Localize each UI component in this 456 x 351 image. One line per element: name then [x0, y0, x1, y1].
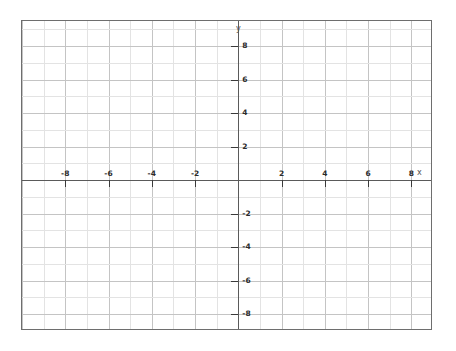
- grid-line-horizontal: [22, 147, 431, 148]
- grid-line-horizontal: [22, 96, 431, 97]
- x-tick-mark: [65, 180, 66, 187]
- x-axis: [22, 180, 431, 181]
- grid-line-vertical: [173, 21, 174, 329]
- grid-line-horizontal: [22, 46, 431, 47]
- x-tick-mark: [325, 180, 326, 187]
- grid-line-vertical: [390, 21, 391, 329]
- x-tick-mark: [195, 180, 196, 187]
- y-axis: [238, 21, 239, 329]
- x-tick-mark: [368, 180, 369, 187]
- plot-area: -8-6-4-224688642-2-4-6-8 x y: [21, 20, 432, 330]
- x-tick-label: -2: [191, 170, 199, 178]
- grid-line-horizontal: [22, 230, 431, 231]
- y-tick-label: 6: [242, 76, 247, 84]
- grid-line-horizontal: [22, 29, 431, 30]
- grid-line-horizontal: [22, 63, 431, 64]
- y-tick-mark: [231, 247, 238, 248]
- grid-line-horizontal: [22, 281, 431, 282]
- grid-line-horizontal: [22, 247, 431, 248]
- y-tick-mark: [231, 147, 238, 148]
- grid-line-vertical: [87, 21, 88, 329]
- y-tick-label: -6: [242, 277, 250, 285]
- grid-line-horizontal: [22, 113, 431, 114]
- y-tick-label: 2: [242, 143, 247, 151]
- y-tick-mark: [231, 113, 238, 114]
- y-tick-mark: [231, 46, 238, 47]
- grid-line-vertical: [22, 21, 23, 329]
- y-tick-label: -4: [242, 243, 250, 251]
- grid-line-horizontal: [22, 130, 431, 131]
- grid-line-vertical: [303, 21, 304, 329]
- x-tick-label: 6: [365, 170, 370, 178]
- x-tick-label: 2: [279, 170, 284, 178]
- grid-line-vertical: [260, 21, 261, 329]
- grid-line-vertical: [44, 21, 45, 329]
- x-tick-mark: [411, 180, 412, 187]
- y-tick-label: -2: [242, 210, 250, 218]
- grid-line-horizontal: [22, 80, 431, 81]
- grid-line-horizontal: [22, 197, 431, 198]
- x-tick-mark: [152, 180, 153, 187]
- grid-line-horizontal: [22, 314, 431, 315]
- coordinate-plane-page: -8-6-4-224688642-2-4-6-8 x y: [0, 0, 456, 351]
- grid-line-horizontal: [22, 214, 431, 215]
- y-tick-mark: [231, 80, 238, 81]
- y-tick-mark: [231, 281, 238, 282]
- y-tick-label: -8: [242, 310, 250, 318]
- y-tick-label: 8: [242, 42, 247, 50]
- x-tick-mark: [109, 180, 110, 187]
- grid-line-horizontal: [22, 264, 431, 265]
- y-tick-mark: [231, 214, 238, 215]
- y-axis-label: y: [236, 25, 241, 33]
- x-tick-label: 4: [322, 170, 327, 178]
- x-tick-label: -4: [148, 170, 156, 178]
- y-tick-mark: [231, 314, 238, 315]
- grid-line-vertical: [346, 21, 347, 329]
- x-tick-label: -8: [61, 170, 69, 178]
- x-axis-label: x: [417, 169, 422, 177]
- grid-line-horizontal: [22, 163, 431, 164]
- x-tick-mark: [282, 180, 283, 187]
- x-tick-label: -6: [104, 170, 112, 178]
- grid-line-horizontal: [22, 297, 431, 298]
- grid-line-vertical: [130, 21, 131, 329]
- grid-line-vertical: [217, 21, 218, 329]
- x-tick-label: 8: [409, 170, 414, 178]
- y-tick-label: 4: [242, 109, 247, 117]
